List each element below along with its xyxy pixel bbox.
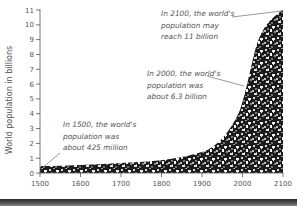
population-chart: 0 1 2 3 4 5 6 7 8 9 10 11 World populati… xyxy=(0,0,297,206)
svg-text:8: 8 xyxy=(30,51,34,59)
leader-line-2100 xyxy=(232,11,282,17)
annotation-line: population was xyxy=(147,80,220,92)
leader-line-1500 xyxy=(42,153,60,168)
svg-text:0: 0 xyxy=(30,170,34,178)
annotation-line: about 6.3 billion xyxy=(147,91,220,103)
annotation-line: population may xyxy=(161,20,234,32)
svg-text:9: 9 xyxy=(30,36,34,44)
svg-text:1900: 1900 xyxy=(193,180,211,188)
x-axis xyxy=(40,173,283,177)
svg-text:4: 4 xyxy=(30,110,35,118)
svg-text:11: 11 xyxy=(25,7,34,15)
svg-text:2100: 2100 xyxy=(274,180,292,188)
svg-text:1800: 1800 xyxy=(153,180,171,188)
annotation-2100: In 2100, the world's population may reac… xyxy=(161,8,234,43)
svg-text:5: 5 xyxy=(30,95,34,103)
annotation-line: about 425 million xyxy=(63,142,136,154)
x-tick-labels: 1500 1600 1700 1800 1900 2000 2100 xyxy=(31,180,292,188)
svg-text:3: 3 xyxy=(30,125,34,133)
svg-text:2000: 2000 xyxy=(234,180,252,188)
svg-text:6: 6 xyxy=(30,81,35,89)
svg-text:2: 2 xyxy=(30,140,34,148)
annotation-line: In 2100, the world's xyxy=(161,8,234,20)
annotation-line: reach 11 billion xyxy=(161,31,234,43)
annotation-1500: In 1500, the world's population was abou… xyxy=(63,119,136,154)
svg-text:7: 7 xyxy=(30,66,34,74)
y-axis-title: World population in billions xyxy=(5,46,14,155)
annotation-2000: In 2000, the world's population was abou… xyxy=(147,68,220,103)
bottom-border xyxy=(0,199,297,206)
y-tick-labels: 0 1 2 3 4 5 6 7 8 9 10 11 xyxy=(25,7,34,178)
svg-text:1500: 1500 xyxy=(31,180,49,188)
annotation-line: In 1500, the world's xyxy=(63,119,136,131)
annotation-line: population was xyxy=(63,131,136,143)
svg-text:1: 1 xyxy=(30,155,34,163)
svg-text:1700: 1700 xyxy=(112,180,130,188)
svg-text:10: 10 xyxy=(25,21,34,29)
annotation-line: In 2000, the world's xyxy=(147,68,220,80)
svg-text:1600: 1600 xyxy=(72,180,90,188)
y-axis xyxy=(36,9,40,174)
